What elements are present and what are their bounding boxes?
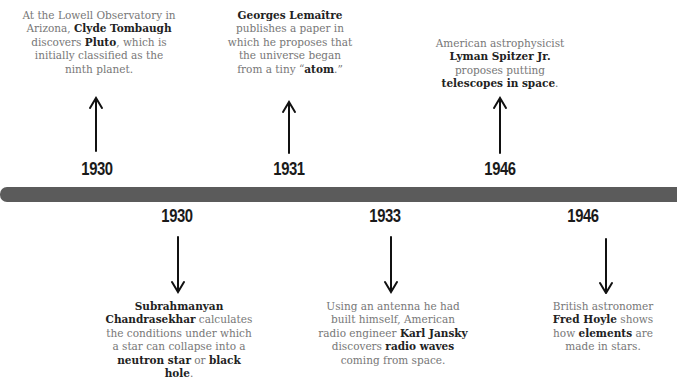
text-fragment: or [191,354,209,366]
text-fragment: . [555,77,558,89]
highlighted-term: Lyman Spitzer Jr. [449,50,550,62]
highlighted-term: neutron star [117,354,191,366]
arrow-down-icon [383,236,399,294]
highlighted-term: radio waves [385,340,454,352]
text-fragment: proposes putting [455,64,545,76]
timeline-bar [0,187,677,202]
text-fragment: coming from space. [341,354,446,366]
year-label-1930-above: 1930 [74,158,121,180]
year-label-1930-below: 1930 [154,205,201,227]
year-label-1946-above: 1946 [477,158,524,180]
event-1946-spitzer-text: American astrophysicist Lyman Spitzer Jr… [430,37,570,91]
arrow-up-icon [88,96,104,152]
highlighted-term: Pluto [85,36,116,48]
year-label-1946-below: 1946 [560,205,607,227]
text-fragment: American astrophysicist [436,37,565,49]
highlighted-term: Fred Hoyle [553,313,617,325]
highlighted-term: Clyde Tombaugh [74,22,172,34]
year-label-1933-below: 1933 [362,205,409,227]
text-fragment: . [190,367,193,379]
text-fragment: discovers [332,340,386,352]
highlighted-term: elements [579,327,633,339]
year-label-1931-above: 1931 [266,158,313,180]
event-1946-hoyle-text: British astronomer Fred Hoyle shows how … [548,300,658,354]
highlighted-term: Karl Jansky [400,327,468,339]
highlighted-term: telescopes in space [442,77,556,89]
text-fragment: British astronomer [553,300,654,312]
arrow-up-icon [492,96,508,154]
arrow-up-icon [281,100,297,154]
text-fragment: .” [334,63,343,75]
arrow-down-icon [598,238,614,294]
event-1930-chandrasekhar-text: Subrahmanyan Chandrasekhar calculates th… [104,300,254,380]
text-fragment: discovers [31,36,85,48]
event-1933-jansky-text: Using an antenna he had built himself, A… [318,300,468,367]
arrow-down-icon [170,236,186,294]
highlighted-term: atom [304,63,334,75]
event-1930-tombaugh-text: At the Lowell Observatory in Arizona, Cl… [20,9,178,76]
highlighted-term: Georges Lemaître [238,9,343,21]
event-1931-lemaitre-text: Georges Lemaître publishes a paper in wh… [225,9,355,76]
